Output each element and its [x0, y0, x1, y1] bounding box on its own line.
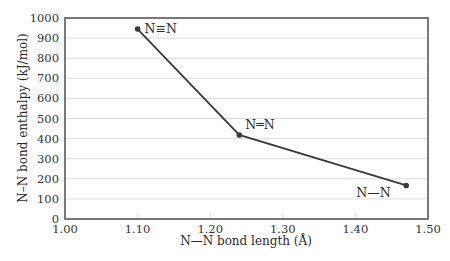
bond-annotation: N—N	[356, 185, 390, 200]
y-tick-label: 1000	[30, 11, 59, 25]
bond-enthalpy-chart: 1.001.101.201.301.401.50 010020030040050…	[0, 0, 450, 261]
y-tick-label: 500	[37, 112, 59, 126]
y-tick-label: 600	[37, 91, 59, 105]
data-series	[135, 26, 409, 188]
y-tick-label: 900	[37, 31, 59, 45]
y-tick-label: 100	[37, 192, 59, 206]
x-axis-label: N—N bond length (Å)	[180, 233, 312, 248]
data-point	[403, 183, 409, 189]
series-line	[138, 29, 407, 185]
x-tick-label: 1.50	[415, 222, 441, 236]
y-tick-label: 400	[37, 132, 59, 146]
bond-annotation: N═N	[245, 117, 274, 132]
x-axis-ticks: 1.001.101.201.301.401.50	[52, 213, 441, 236]
x-tick-label: 1.10	[125, 222, 151, 236]
y-tick-label: 700	[37, 71, 59, 85]
y-tick-label: 300	[37, 152, 59, 166]
y-tick-label: 200	[37, 172, 59, 186]
data-point	[135, 26, 141, 32]
y-axis-ticks: 01002003004005006007008009001000	[30, 11, 59, 226]
y-tick-label: 800	[37, 51, 59, 65]
x-tick-label: 1.40	[343, 222, 369, 236]
point-annotations: N≡NN═NN—N	[145, 21, 391, 200]
data-point	[236, 132, 242, 138]
bond-annotation: N≡N	[145, 21, 177, 36]
y-tick-label: 0	[52, 212, 59, 226]
y-axis-label: N–N bond enthalpy (kJ/mol)	[16, 33, 30, 203]
